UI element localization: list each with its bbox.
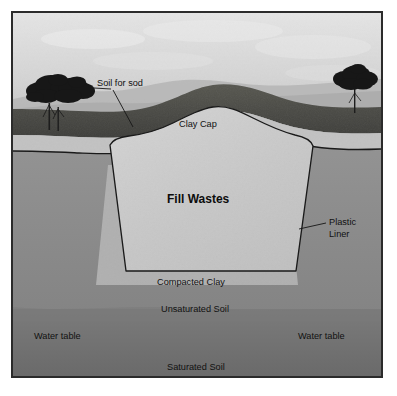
label-plastic-liner-line2: Liner	[329, 229, 349, 239]
figure-stage: Soil for sod Clay Cap Fill Wastes Plasti…	[0, 0, 397, 396]
label-saturated-soil: Saturated Soil	[167, 362, 225, 372]
label-clay-cap: Clay Cap	[179, 119, 217, 129]
label-plastic-liner-line1: Plastic	[329, 217, 356, 227]
landfill-cross-section-figure: Soil for sod Clay Cap Fill Wastes Plasti…	[11, 11, 383, 378]
label-compacted-clay: Compacted Clay	[157, 277, 225, 287]
label-fill-wastes: Fill Wastes	[167, 192, 230, 206]
label-soil-for-sod: Soil for sod	[97, 78, 143, 88]
label-unsaturated-soil: Unsaturated Soil	[161, 304, 229, 314]
label-water-table-right: Water table	[298, 331, 345, 341]
label-water-table-left: Water table	[34, 331, 81, 341]
landfill-diagram-svg: Soil for sod Clay Cap Fill Wastes Plasti…	[13, 13, 381, 376]
